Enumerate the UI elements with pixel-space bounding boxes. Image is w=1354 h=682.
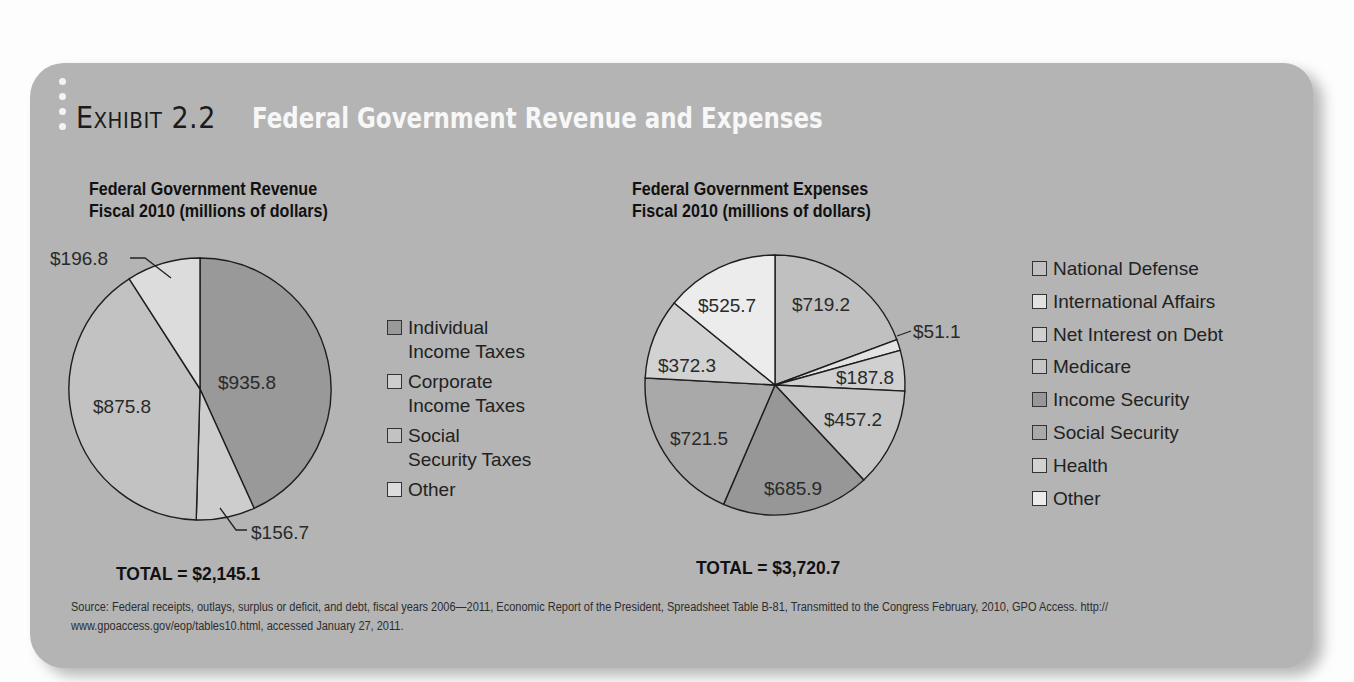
- legend-label: Other: [408, 478, 456, 502]
- legend-label: International Affairs: [1053, 290, 1215, 314]
- expenses-slice-label: $457.2: [824, 409, 882, 430]
- legend-swatch-icon: [387, 482, 402, 497]
- legend-item: International Affairs: [1032, 290, 1223, 314]
- legend-swatch-icon: [1032, 425, 1047, 440]
- source-note: Source: Federal receipts, outlays, surpl…: [71, 598, 1153, 636]
- legend-label: Health: [1053, 454, 1108, 478]
- legend-swatch-icon: [387, 428, 402, 443]
- legend-swatch-icon: [387, 374, 402, 389]
- legend-label: Medicare: [1053, 355, 1131, 379]
- legend-swatch-icon: [1032, 392, 1047, 407]
- legend-item: Other: [1032, 487, 1223, 511]
- legend-item: Net Interest on Debt: [1032, 323, 1223, 347]
- legend-label: IndividualIncome Taxes: [408, 316, 525, 364]
- expenses-slice-label: $721.5: [670, 428, 728, 449]
- revenue-legend: IndividualIncome Taxes CorporateIncome T…: [387, 316, 531, 502]
- revenue-slice-label: $875.8: [93, 396, 151, 417]
- legend-swatch-icon: [1032, 261, 1047, 276]
- legend-swatch-icon: [1032, 359, 1047, 374]
- expenses-slice-label: $187.8: [836, 367, 894, 388]
- expenses-legend: National DefenseInternational AffairsNet…: [1032, 257, 1223, 519]
- legend-swatch-icon: [1032, 491, 1047, 506]
- legend-label: Income Security: [1053, 388, 1189, 412]
- legend-label: CorporateIncome Taxes: [408, 370, 525, 418]
- leader-line: [897, 331, 911, 336]
- legend-item: Other: [387, 478, 531, 502]
- legend-label: Social Security: [1053, 421, 1179, 445]
- revenue-slice-label: $935.8: [218, 372, 276, 393]
- expenses-slice-label: $525.7: [698, 295, 756, 316]
- expenses-slice-label: $372.3: [658, 355, 716, 376]
- legend-swatch-icon: [387, 320, 402, 335]
- legend-label: Net Interest on Debt: [1053, 323, 1223, 347]
- legend-item: Social Security: [1032, 421, 1223, 445]
- legend-item: Health: [1032, 454, 1223, 478]
- legend-swatch-icon: [1032, 327, 1047, 342]
- legend-label: SocialSecurity Taxes: [408, 424, 531, 472]
- revenue-total: TOTAL = $2,145.1: [116, 563, 260, 585]
- revenue-slice-label: $156.7: [251, 522, 309, 543]
- legend-label: National Defense: [1053, 257, 1199, 281]
- legend-item: IndividualIncome Taxes: [387, 316, 531, 364]
- expenses-slice-label: $719.2: [792, 294, 850, 315]
- legend-item: National Defense: [1032, 257, 1223, 281]
- legend-item: CorporateIncome Taxes: [387, 370, 531, 418]
- revenue-slice-label: $196.8: [50, 248, 108, 269]
- legend-label: Other: [1053, 487, 1101, 511]
- expenses-slice-label: $685.9: [764, 478, 822, 499]
- expenses-slice-label: $51.1: [913, 321, 961, 342]
- expenses-total: TOTAL = $3,720.7: [696, 557, 840, 579]
- legend-item: Income Security: [1032, 388, 1223, 412]
- legend-item: SocialSecurity Taxes: [387, 424, 531, 472]
- legend-swatch-icon: [1032, 294, 1047, 309]
- revenue-pie-chart: [69, 258, 331, 520]
- legend-item: Medicare: [1032, 355, 1223, 379]
- legend-swatch-icon: [1032, 458, 1047, 473]
